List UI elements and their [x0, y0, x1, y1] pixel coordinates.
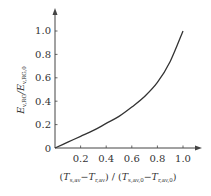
x-tick-label: 0.2: [73, 153, 89, 164]
data-curve: [55, 31, 183, 148]
x-tick-label: 1.0: [175, 153, 191, 164]
x-tick-label: 0.6: [124, 153, 140, 164]
y-tick-label: 0.4: [35, 96, 51, 107]
x-tick-label: 0.4: [98, 153, 114, 164]
y-tick-label: 0.8: [35, 49, 51, 60]
x-axis-arrow-icon: [195, 146, 202, 151]
y-tick-label: 0: [45, 143, 51, 154]
y-tick-label: 1.0: [35, 25, 51, 36]
y-tick-label: 0.2: [35, 119, 51, 130]
y-axis-label: Ev,RG/Ev,RG,0: [15, 66, 27, 115]
x-tick-label: 0.8: [149, 153, 165, 164]
chart: 0.2 0.4 0.6 0.8 1.0 0 0.2 0.4 0.6 0.8 1.…: [0, 0, 211, 196]
x-axis-label: (Ts,av−Tr,av) / (Ts,av,0−Tr,av,0): [60, 171, 177, 183]
y-tick-label: 0.6: [35, 72, 51, 83]
y-axis-arrow-icon: [53, 8, 58, 15]
